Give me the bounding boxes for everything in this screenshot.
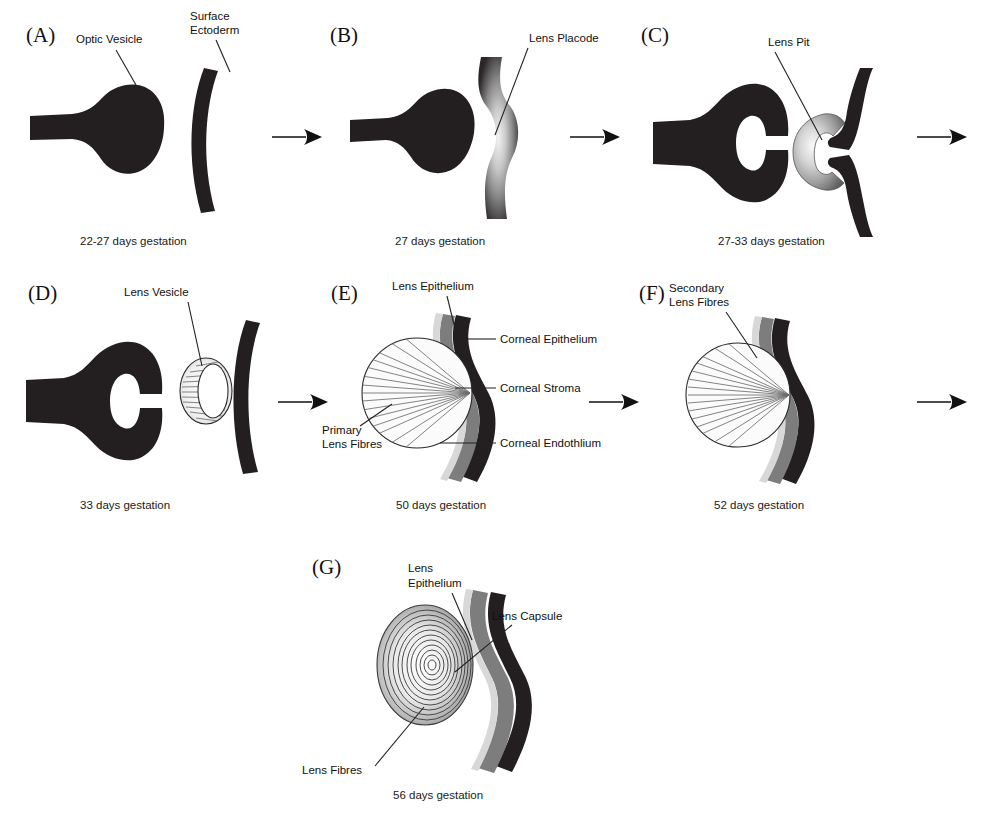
panel-e-letter: (E) — [331, 281, 358, 305]
panel-c-letter: (C) — [641, 23, 669, 47]
panel-f-caption: 52 days gestation — [714, 499, 804, 511]
primary-lens-fibres-label-line1: Primary — [322, 424, 362, 436]
panel-g-letter: (G) — [312, 555, 341, 579]
panel-a-caption: 22-27 days gestation — [80, 235, 187, 247]
lens-capsule-label: Lens Capsule — [492, 610, 562, 622]
panel-a-letter: (A) — [26, 23, 55, 47]
panel-d-caption: 33 days gestation — [80, 499, 170, 511]
lens-epithelium-label-g-line2: Epithelium — [408, 577, 462, 589]
panel-d-letter: (D) — [28, 281, 57, 305]
secondary-lens-fibres-label-line2: Lens Fibres — [669, 296, 729, 308]
panel-g-caption: 56 days gestation — [393, 789, 483, 801]
lens-placode-label: Lens Placode — [529, 32, 599, 44]
corneal-stroma-label: Corneal Stroma — [500, 382, 581, 394]
lens-epithelium-label-g-line1: Lens — [408, 562, 433, 574]
secondary-lens-fibres-label-line1: Secondary — [669, 282, 724, 294]
panel-b-letter: (B) — [330, 23, 358, 47]
surface-ectoderm-label-line2: Ectoderm — [190, 24, 239, 36]
optic-vesicle-label: Optic Vesicle — [76, 33, 142, 45]
lens-fibres-label: Lens Fibres — [302, 764, 362, 776]
panel-c-caption: 27-33 days gestation — [718, 235, 825, 247]
corneal-epithelium-label: Corneal Epithelium — [500, 333, 597, 345]
lamellar-lens-shape — [377, 605, 473, 725]
lens-pit-label: Lens Pit — [768, 36, 810, 48]
corneal-endothelium-label: Corneal Endothlium — [500, 437, 601, 449]
lens-development-figure: (A) Optic Vesicle Surface Ectoderm 22-27… — [0, 0, 992, 828]
panel-b-caption: 27 days gestation — [395, 235, 485, 247]
surface-ectoderm-label-line1: Surface — [190, 10, 230, 22]
lens-vesicle-shape — [180, 358, 232, 424]
panel-f-letter: (F) — [639, 281, 665, 305]
lens-epithelium-label-e: Lens Epithelium — [392, 280, 474, 292]
lens-capsule-shape — [377, 605, 473, 725]
figure-root: (A) Optic Vesicle Surface Ectoderm 22-27… — [0, 0, 992, 828]
lens-vesicle-label: Lens Vesicle — [124, 286, 189, 298]
primary-lens-fibres-label-line2: Lens Fibres — [322, 438, 382, 450]
panel-e-caption: 50 days gestation — [396, 499, 486, 511]
